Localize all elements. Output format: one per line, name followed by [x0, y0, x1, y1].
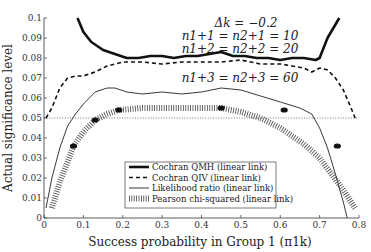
x-axis-label: Success probability in Group 1 (π1k) [88, 235, 311, 249]
x-tick-label: 0.3 [155, 220, 170, 230]
y-tick-label: 0.03 [22, 153, 42, 163]
legend-label: Cochran QMH (linear link) [152, 162, 267, 172]
annotation-text: n1+3 = n2+3 = 60 [182, 71, 299, 85]
x-tick-label: 0.7 [312, 220, 327, 230]
annotations: Δk = −0.2n1+1 = n2+1 = 10n1+2 = n2+2 = 2… [182, 16, 299, 85]
legend-label: Cochran QIV (linear link) [152, 173, 261, 183]
annotation-text: n1+2 = n2+2 = 20 [182, 42, 299, 56]
y-tick-label: 0.1 [28, 13, 42, 23]
x-tick-label: 0 [41, 220, 47, 230]
data-marker [115, 107, 122, 112]
data-marker [218, 105, 225, 110]
data-marker [334, 143, 341, 148]
x-tick-label: 0.5 [234, 220, 249, 230]
annotation-text: Δk = −0.2 [214, 16, 278, 30]
annotation-text: n1+1 = n2+1 = 10 [182, 29, 299, 43]
y-tick-label: 0.04 [22, 133, 42, 143]
data-marker [281, 107, 288, 112]
legend-label: Likelihood ratio (linear link) [152, 183, 273, 193]
legend: Cochran QMH (linear link)Cochran QIV (li… [125, 162, 293, 208]
legend-label: Pearson chi-squared (linear link) [152, 194, 293, 204]
x-tick-label: 0.2 [116, 220, 130, 230]
y-tick-label: 0.02 [22, 173, 42, 183]
series-cochran-qiv [46, 60, 355, 118]
significance-chart: 00.10.20.30.40.50.60.70.800.010.020.030.… [0, 0, 371, 252]
y-tick-label: 0.01 [22, 193, 42, 203]
x-tick-label: 0.4 [194, 220, 209, 230]
y-tick-label: 0.08 [22, 53, 42, 63]
y-tick-label: 0.07 [22, 73, 42, 83]
y-tick-label: 0.06 [22, 93, 42, 103]
data-marker [92, 117, 99, 122]
y-tick-label: 0 [36, 213, 42, 223]
x-tick-label: 0.6 [273, 220, 288, 230]
y-tick-label: 0.09 [22, 33, 42, 43]
y-tick-label: 0.05 [22, 113, 42, 123]
x-tick-label: 0.8 [352, 220, 367, 230]
data-marker [70, 143, 77, 148]
x-tick-label: 0.1 [76, 220, 90, 230]
y-axis-label: Actual significance level [1, 44, 15, 193]
